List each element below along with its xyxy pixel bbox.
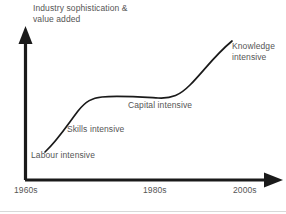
annotation-capital-intensive: Capital intensive xyxy=(128,100,192,111)
industry-sophistication-chart: Industry sophistication &value added Kno… xyxy=(0,0,286,214)
x-tick-label-1980s: 1980s xyxy=(143,185,167,196)
annotation-knowledge-intensive: Knowledgeintensive xyxy=(232,41,275,62)
growth-curve xyxy=(45,41,232,152)
y-axis-arrowhead-icon xyxy=(19,26,33,44)
annotation-knowledge-line2: intensive xyxy=(232,52,266,62)
annotation-knowledge-line1: Knowledge xyxy=(232,41,275,51)
y-axis-title-line2: value added xyxy=(33,14,80,24)
bottom-divider xyxy=(0,211,286,212)
x-tick-label-1960s: 1960s xyxy=(14,185,38,196)
y-axis-title-line1: Industry sophistication & xyxy=(33,3,128,13)
annotation-skills-intensive: Skills intensive xyxy=(67,124,124,135)
y-axis-title: Industry sophistication &value added xyxy=(33,3,128,24)
x-axis-arrowhead-icon xyxy=(264,173,283,188)
x-tick-label-2000s: 2000s xyxy=(233,185,257,196)
annotation-labour-intensive: Labour intensive xyxy=(31,150,95,161)
